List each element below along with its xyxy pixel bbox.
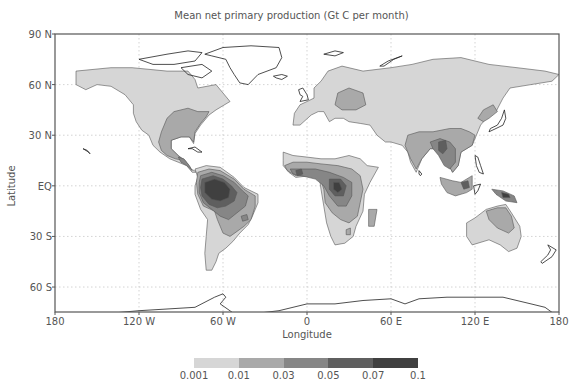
y-tick-label: 30 S — [30, 231, 52, 242]
colorbar-segment — [373, 358, 418, 368]
x-tick-label: 180 — [45, 316, 64, 327]
x-axis-label: Longitude — [282, 329, 332, 340]
colorbar-segment — [194, 358, 239, 368]
x-tick-label: 60 E — [380, 316, 402, 327]
colorbar-tick-label: 0.03 — [272, 370, 294, 381]
colorbar-tick-label: 0.07 — [362, 370, 384, 381]
y-axis-label: Latitude — [6, 165, 17, 206]
y-tick-label: EQ — [38, 180, 52, 191]
x-tick-label: 120 E — [461, 316, 490, 327]
colorbar-segment — [328, 358, 373, 368]
x-tick-label: 60 W — [210, 316, 236, 327]
x-tick-label: 180 — [549, 316, 568, 327]
y-tick-label: 60 N — [29, 79, 52, 90]
colorbar-segment — [284, 358, 329, 368]
y-tick-label: 60 S — [30, 282, 52, 293]
colorbar-tick-label: 0.05 — [317, 370, 339, 381]
y-tick-label: 90 N — [29, 29, 52, 40]
x-tick-label: 120 W — [123, 316, 155, 327]
colorbar-tick-label: 0.01 — [228, 370, 250, 381]
colorbar-tick-label: 0.1 — [410, 370, 426, 381]
x-tick-label: 0 — [304, 316, 310, 327]
y-tick-label: 30 N — [29, 130, 52, 141]
colorbar-tick-label: 0.001 — [180, 370, 209, 381]
colorbar-segment — [239, 358, 284, 368]
